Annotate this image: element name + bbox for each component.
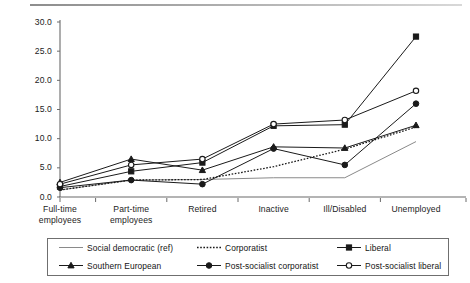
- x-axis-tick-label: Unemployed: [373, 204, 459, 215]
- data-point-marker: [413, 34, 418, 39]
- legend-row: Southern EuropeanPost-socialist corporat…: [48, 258, 448, 275]
- data-point-marker: [271, 121, 276, 126]
- data-point-marker: [129, 169, 134, 174]
- y-axis-tick-label: 25.0: [18, 46, 52, 56]
- chart-legend: Social democratic (ref)CorporatistLibera…: [47, 238, 449, 276]
- legend-item[interactable]: Liberal: [336, 242, 391, 253]
- series-line: [57, 101, 419, 191]
- legend-item-label: Southern European: [87, 261, 161, 271]
- data-point-marker: [206, 263, 212, 269]
- legend-item[interactable]: Post-socialist corporatist: [196, 260, 318, 271]
- legend-item[interactable]: Southern European: [58, 260, 161, 271]
- y-axis-tick-label: 5.0: [18, 162, 52, 172]
- legend-item-label: Corporatist: [225, 243, 267, 253]
- data-point-marker: [342, 117, 347, 122]
- series-polyline: [60, 125, 416, 182]
- series-polyline: [60, 91, 416, 184]
- legend-line-sample: [58, 242, 84, 253]
- data-point-marker: [128, 177, 134, 183]
- legend-item-label: Liberal: [365, 243, 391, 253]
- data-point-marker: [413, 101, 419, 107]
- data-point-marker: [413, 88, 418, 93]
- y-axis-tick-label: 30.0: [18, 17, 52, 27]
- series-polyline: [60, 37, 416, 187]
- legend-item[interactable]: Post-socialist liberal: [336, 260, 441, 271]
- data-point-marker: [200, 181, 206, 187]
- series-line: [60, 142, 416, 190]
- legend-row: Social democratic (ref)CorporatistLibera…: [48, 240, 448, 257]
- series-line: [57, 88, 418, 187]
- data-point-marker: [57, 181, 62, 186]
- data-point-marker: [128, 156, 134, 162]
- chart-plot-area: 0.05.010.015.020.025.030.0 Full-timeempl…: [0, 0, 470, 232]
- data-point-marker: [346, 263, 351, 268]
- data-point-marker: [342, 162, 348, 168]
- y-axis-tick-label: 0.0: [18, 192, 52, 202]
- legend-line-sample: [58, 260, 84, 271]
- legend-item[interactable]: Corporatist: [196, 242, 267, 253]
- legend-line-sample: [336, 242, 362, 253]
- y-axis-tick-label: 20.0: [18, 75, 52, 85]
- legend-item-label: Post-socialist corporatist: [225, 261, 318, 271]
- legend-line-sample: [196, 260, 222, 271]
- chart-series: [57, 34, 419, 190]
- data-point-marker: [200, 156, 205, 161]
- legend-line-sample: [336, 260, 362, 271]
- series-polyline: [60, 142, 416, 190]
- line-chart-svg: [0, 0, 470, 232]
- legend-item-label: Social democratic (ref): [87, 243, 173, 253]
- data-point-marker: [271, 146, 277, 152]
- y-axis-tick-label: 15.0: [18, 104, 52, 114]
- chart-axes: [57, 20, 466, 202]
- data-point-marker: [413, 122, 419, 128]
- legend-line-sample: [196, 242, 222, 253]
- data-point-marker: [346, 245, 351, 250]
- legend-item[interactable]: Social democratic (ref): [58, 242, 173, 253]
- data-point-marker: [129, 162, 134, 167]
- y-axis-tick-label: 10.0: [18, 133, 52, 143]
- legend-item-label: Post-socialist liberal: [365, 261, 441, 271]
